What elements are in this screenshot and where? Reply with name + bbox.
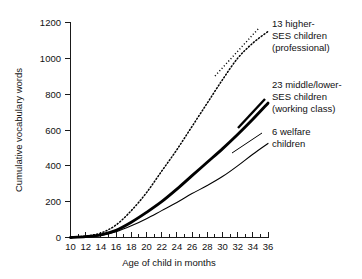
y-tick-label: 400 bbox=[45, 160, 61, 171]
cumulative-vocabulary-chart: 1200 1000 800 600 400 200 0 Cumulative v… bbox=[0, 0, 362, 279]
annotation-line: (working class) bbox=[272, 103, 335, 114]
x-tick-label: 28 bbox=[202, 241, 213, 252]
x-tick-label: 20 bbox=[141, 241, 152, 252]
annotation-line: (professional) bbox=[272, 42, 330, 53]
annotation-line: 6 welfare bbox=[272, 126, 311, 137]
x-tick-label: 24 bbox=[172, 241, 183, 252]
annotation-line: children bbox=[272, 138, 305, 149]
x-tick-label: 16 bbox=[111, 241, 122, 252]
annotation-line: 23 middle/lower- bbox=[272, 79, 342, 90]
y-tick-label: 0 bbox=[56, 232, 61, 243]
x-tick-label: 30 bbox=[217, 241, 228, 252]
y-tick-label: 1200 bbox=[40, 17, 61, 28]
x-tick-label: 14 bbox=[96, 241, 107, 252]
x-tick-label: 12 bbox=[80, 241, 91, 252]
y-axis-title: Cumulative vocabulary words bbox=[13, 68, 24, 192]
x-tick-label: 18 bbox=[126, 241, 137, 252]
y-tick-label: 200 bbox=[45, 196, 61, 207]
x-axis-title: Age of child in months bbox=[122, 257, 216, 268]
y-tick-label: 1000 bbox=[40, 53, 61, 64]
annotation-welfare: 6 welfare children bbox=[272, 126, 311, 149]
annotation-line: 13 higher- bbox=[272, 18, 315, 29]
y-tick-label: 800 bbox=[45, 89, 61, 100]
x-tick-label: 10 bbox=[65, 241, 76, 252]
x-tick-label: 34 bbox=[248, 241, 259, 252]
x-tick-label: 32 bbox=[232, 241, 243, 252]
annotation-line: SES children bbox=[272, 30, 327, 41]
annotation-line: SES children bbox=[272, 91, 327, 102]
x-tick-label: 22 bbox=[156, 241, 167, 252]
y-tick-label: 600 bbox=[45, 125, 61, 136]
x-tick-label: 36 bbox=[263, 241, 274, 252]
x-tick-label: 26 bbox=[187, 241, 198, 252]
chart-svg: 1200 1000 800 600 400 200 0 Cumulative v… bbox=[0, 0, 362, 279]
